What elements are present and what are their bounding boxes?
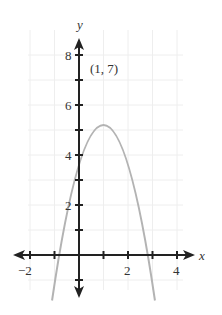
- x-axis-label: x: [198, 248, 205, 263]
- chart: y x −2 2 4 8 6 4 2 (1, 7): [0, 0, 222, 315]
- y-tick-label: 8: [65, 48, 72, 63]
- x-tick-label: −2: [18, 263, 32, 278]
- x-tick-label: 2: [124, 263, 131, 278]
- y-tick-label: 6: [65, 98, 72, 113]
- y-axis-label: y: [75, 17, 83, 32]
- x-tick-label: 4: [173, 263, 180, 278]
- y-tick-label: 4: [65, 148, 72, 163]
- y-tick-label: 2: [65, 198, 72, 213]
- vertex-annotation: (1, 7): [90, 61, 118, 76]
